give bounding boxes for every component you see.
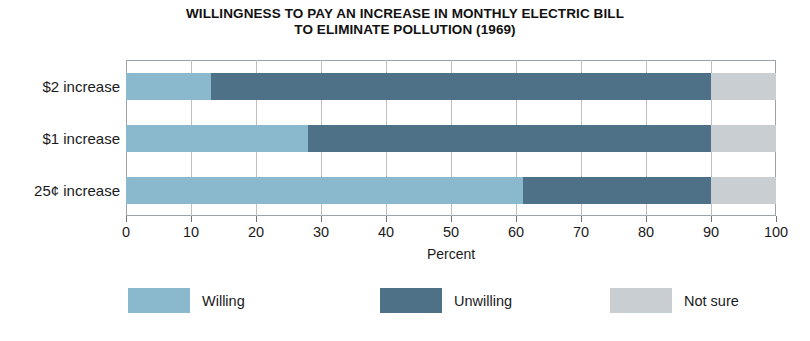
y-axis-label-3: 25¢ increase [0, 177, 120, 204]
bar-row [126, 73, 776, 100]
x-tick-label: 0 [122, 224, 130, 240]
x-axis-label: Percent [126, 246, 776, 262]
bar-segment-willing [126, 125, 308, 152]
x-tickmark [386, 216, 387, 222]
chart-title-line-1: WILLINGNESS TO PAY AN INCREASE IN MONTHL… [0, 6, 810, 22]
x-tickmark [776, 216, 777, 222]
x-tick-label: 40 [378, 224, 394, 240]
plot-area [126, 60, 776, 216]
x-axis-tickmarks [126, 216, 776, 223]
x-tick-label: 30 [313, 224, 329, 240]
x-tick-label: 100 [764, 224, 788, 240]
x-tick-label: 70 [573, 224, 589, 240]
x-tickmark [126, 216, 127, 222]
bar-segment-unwilling [308, 125, 711, 152]
x-tick-label: 80 [638, 224, 654, 240]
x-tick-label: 90 [703, 224, 719, 240]
legend-swatch-icon [610, 288, 672, 313]
x-tickmark [321, 216, 322, 222]
legend-swatch-icon [128, 288, 190, 313]
x-tickmark [451, 216, 452, 222]
chart-title-line-2: TO ELIMINATE POLLUTION (1969) [0, 22, 810, 38]
x-tickmark [256, 216, 257, 222]
bar-segment-not-sure [711, 177, 776, 204]
legend-label: Unwilling [454, 293, 512, 309]
y-axis-label-1: $2 increase [0, 73, 120, 100]
legend-swatch-icon [380, 288, 442, 313]
bar-row [126, 177, 776, 204]
x-tickmark [646, 216, 647, 222]
x-tickmark [516, 216, 517, 222]
legend-item-unwilling[interactable]: Unwilling [380, 288, 512, 313]
bar-segment-not-sure [711, 73, 776, 100]
chart-legend: WillingUnwillingNot sure [0, 288, 810, 322]
y-axis-label-2: $1 increase [0, 125, 120, 152]
bar-segment-not-sure [711, 125, 776, 152]
x-tick-label: 20 [248, 224, 264, 240]
x-tick-label: 50 [443, 224, 459, 240]
x-tick-label: 10 [183, 224, 199, 240]
chart-title: WILLINGNESS TO PAY AN INCREASE IN MONTHL… [0, 6, 810, 38]
bar-segment-unwilling [211, 73, 712, 100]
legend-item-not-sure[interactable]: Not sure [610, 288, 739, 313]
x-tickmark [581, 216, 582, 222]
bar-segment-willing [126, 177, 523, 204]
legend-item-willing[interactable]: Willing [128, 288, 245, 313]
y-axis-category-labels: $2 increase$1 increase25¢ increase [0, 60, 120, 216]
bar-segment-willing [126, 73, 211, 100]
bar-row [126, 125, 776, 152]
x-tickmark [711, 216, 712, 222]
bar-segment-unwilling [523, 177, 712, 204]
legend-label: Not sure [684, 293, 739, 309]
legend-label: Willing [202, 293, 245, 309]
x-tick-label: 60 [508, 224, 524, 240]
x-axis-tick-labels: 0102030405060708090100 [0, 224, 810, 244]
x-tickmark [191, 216, 192, 222]
